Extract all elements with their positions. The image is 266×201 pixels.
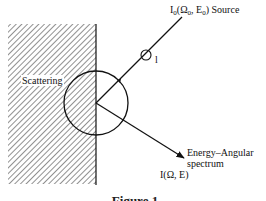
spectrum-label-line2: spectrum [187, 158, 224, 169]
scattering-diagram [0, 0, 266, 201]
path-length-label: l [155, 54, 158, 65]
path-length-marker [141, 50, 151, 60]
source-word: Source [212, 4, 240, 15]
intensity-label: I(Ω, E) [160, 169, 189, 180]
figure-caption: Figure 1 [80, 193, 190, 201]
incident-beam [96, 17, 182, 103]
scattering-medium [8, 24, 96, 184]
source-label: I0(Ω0, E0) Source [170, 4, 239, 19]
scattering-label: Scattering [21, 75, 64, 86]
scattered-beam [96, 103, 184, 158]
spectrum-label-line1: Energy–Angular [187, 147, 253, 158]
